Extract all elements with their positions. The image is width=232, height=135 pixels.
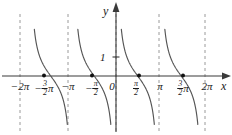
curve-branch-2 — [78, 29, 111, 124]
x-tick-label-pi-over-2: π2 — [133, 80, 139, 97]
tick-lead: − — [85, 82, 92, 94]
tick-fraction: π2 — [133, 80, 139, 97]
tick-lead: − — [35, 82, 42, 94]
y-axis-label: y — [103, 5, 108, 17]
tick-trail: π — [183, 82, 189, 94]
curve-branch-4 — [165, 29, 198, 124]
fraction-numerator: π — [93, 80, 99, 88]
tick-trail: π — [157, 80, 163, 92]
x-axis-label: x — [221, 80, 226, 92]
fraction-numerator: 3 — [177, 80, 183, 88]
x-tick-label-zero: 0 — [109, 80, 115, 92]
x-tick-label-3pi-over-2: 32π — [177, 80, 189, 97]
tick-lead: 0 — [109, 80, 115, 92]
x-tick-label-2pi: 2π — [201, 80, 212, 92]
tick-lead: −2 — [11, 80, 24, 92]
y-tick-label-1: 1 — [100, 52, 106, 63]
cotangent-graph-figure: −2π−32π−π−π20π2π32π2π 1 y x — [0, 0, 232, 135]
fraction-denominator: 2 — [93, 88, 99, 97]
zero-marker-0 — [42, 74, 46, 78]
fraction-numerator: 3 — [42, 80, 48, 88]
zero-marker-2 — [137, 74, 141, 78]
x-tick-label-pi: π — [157, 80, 163, 92]
fraction-numerator: π — [133, 80, 139, 88]
curve-branch-1 — [34, 29, 67, 124]
tick-fraction: 32 — [42, 80, 48, 97]
zero-marker-1 — [90, 74, 94, 78]
tick-fraction: π2 — [93, 80, 99, 97]
x-tick-label-neg-pi-over-2: −π2 — [85, 80, 98, 97]
x-tick-label-neg-3pi-over-2: −32π — [35, 80, 54, 97]
x-tick-label-neg-pi: −π — [62, 80, 75, 92]
tick-fraction: 32 — [177, 80, 183, 97]
fraction-denominator: 2 — [177, 88, 183, 97]
fraction-denominator: 2 — [42, 88, 48, 97]
tick-trail: π — [207, 80, 213, 92]
zero-marker-3 — [181, 74, 185, 78]
x-tick-label-neg-2pi: −2π — [11, 80, 29, 92]
fraction-denominator: 2 — [133, 88, 139, 97]
y-axis-arrowhead — [113, 2, 120, 12]
tick-trail: π — [24, 80, 30, 92]
asymptote-group — [20, 14, 205, 132]
tick-trail: π — [69, 80, 75, 92]
tick-trail: π — [48, 82, 54, 94]
plot-canvas — [0, 0, 232, 135]
